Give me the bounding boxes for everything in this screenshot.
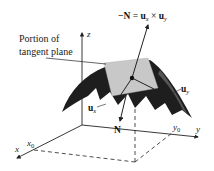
tangent-point: [130, 76, 134, 80]
x0-dashed-line: [34, 150, 135, 162]
x0-label: x0: [26, 138, 34, 149]
eq-neg-n: −N: [118, 11, 130, 21]
n-label: N: [114, 125, 121, 135]
x0-sub: 0: [31, 142, 34, 149]
y-axis-label: y: [195, 124, 200, 134]
eq-equals: =: [130, 11, 140, 21]
y0-dashed-line: [135, 133, 172, 162]
eq-times: ×: [149, 11, 159, 21]
equation-label: −N = ux × uy: [118, 11, 167, 22]
portion-label-line2: tangent plane: [19, 46, 73, 57]
uy-label: uy: [181, 84, 189, 95]
ux-sub: x: [92, 107, 96, 114]
ux-leader-line: [97, 104, 106, 107]
y0-label: y0: [172, 122, 180, 133]
tangent-plane-diagram: Portion of tangent plane −N = ux × uy z …: [0, 0, 214, 171]
y-axis: [82, 125, 198, 137]
z-axis-label: z: [86, 29, 91, 39]
uy-sub: y: [185, 88, 189, 95]
x-axis-label: x: [14, 144, 19, 154]
ux-label: ux: [88, 103, 96, 114]
eq-u2-sub: y: [163, 15, 167, 22]
label-leader-line: [46, 58, 106, 64]
y0-sub: 0: [177, 126, 180, 133]
portion-label-line1: Portion of: [19, 33, 60, 44]
